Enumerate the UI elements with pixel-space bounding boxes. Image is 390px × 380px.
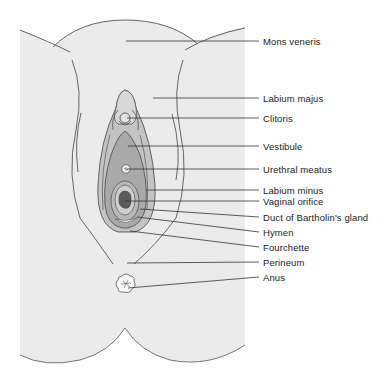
label-fourchette: Fourchette (263, 242, 309, 253)
label-vaginal-orifice: Vaginal orifice (263, 196, 323, 207)
label-vestibule: Vestibule (263, 141, 302, 152)
label-mons-veneris: Mons veneris (263, 36, 321, 47)
label-anus: Anus (263, 272, 285, 283)
label-urethral-meatus: Urethral meatus (263, 164, 332, 175)
label-perineum: Perineum (263, 257, 304, 268)
label-clitoris: Clitoris (263, 113, 293, 124)
label-labium-majus: Labium majus (263, 93, 323, 104)
vaginal-orifice (119, 191, 131, 208)
label-duct-of-bartholins-gland: Duct of Bartholin's gland (263, 212, 368, 223)
label-labium-minus: Labium minus (263, 185, 323, 196)
label-hymen: Hymen (263, 227, 294, 238)
anatomy-diagram (0, 0, 390, 380)
